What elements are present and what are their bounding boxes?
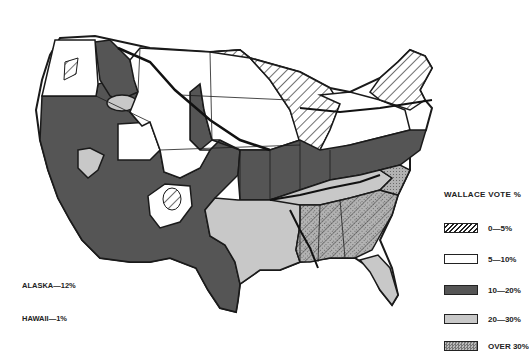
hawaii-note: HAWAII—1% [22, 314, 67, 323]
legend-item-0-5: 0—5% [444, 222, 512, 234]
hatch-swatch-icon [444, 223, 478, 233]
region-florida-light [360, 255, 398, 305]
legend-label: 5—10% [488, 255, 516, 264]
dark-swatch-icon [444, 285, 478, 295]
legend-item-over-30: OVER 30% [444, 340, 529, 352]
legend-label: OVER 30% [488, 342, 529, 351]
legend-label: 10—20% [488, 286, 521, 295]
legend-item-20-30: 20—30% [444, 313, 521, 325]
legend-item-10-20: 10—20% [444, 284, 521, 296]
light-swatch-icon [444, 314, 478, 324]
stipple-swatch-icon [444, 341, 478, 351]
legend-label: 20—30% [488, 315, 521, 324]
legend-label: 0—5% [488, 224, 512, 233]
white-swatch-icon [444, 254, 478, 264]
legend-item-5-10: 5—10% [444, 253, 516, 265]
alaska-note: ALASKA—12% [22, 281, 76, 290]
region-nm-hatch [163, 188, 181, 210]
legend-title: WALLACE VOTE % [444, 190, 521, 199]
